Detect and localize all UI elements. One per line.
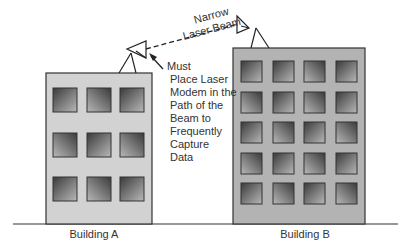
placement-note: Must Place Laser Modem in the Path of th… <box>167 60 237 163</box>
svg-text:Data: Data <box>170 151 194 163</box>
svg-text:Modem in the: Modem in the <box>170 86 237 98</box>
building-a <box>46 73 152 224</box>
building-a-label: Building A <box>70 228 120 240</box>
svg-text:Beam to: Beam to <box>170 112 211 124</box>
beam-label: Narrow Laser Beam <box>178 2 242 41</box>
svg-text:Frequently: Frequently <box>170 125 222 137</box>
building-b <box>233 48 365 224</box>
laser-link-diagram: Narrow Laser Beam Must Place Laser Modem… <box>0 0 413 252</box>
svg-text:Capture: Capture <box>170 138 209 150</box>
laser-modem-a-icon <box>119 41 146 73</box>
svg-text:Must: Must <box>167 60 191 72</box>
svg-text:Place Laser: Place Laser <box>170 73 228 85</box>
svg-text:Path of the: Path of the <box>170 99 223 111</box>
building-a-windows <box>53 88 144 201</box>
pointer-arrow-icon <box>149 53 163 69</box>
building-b-label: Building B <box>280 228 330 240</box>
laser-modem-b-icon <box>237 16 269 48</box>
